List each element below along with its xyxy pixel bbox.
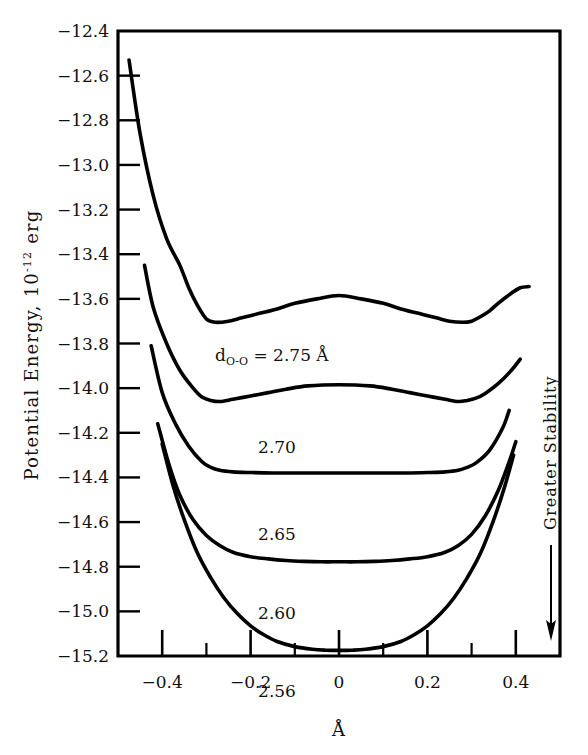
x-tick-label: 0.2 (414, 672, 441, 692)
curve-label-equals: = 2.75 (248, 345, 316, 365)
curve-group (129, 60, 529, 650)
x-axis-title: Å (331, 719, 346, 740)
y-tick-label: −14.4 (57, 467, 109, 487)
greater-stability-label: Greater Stability (541, 375, 560, 530)
y-axis-title-exponent: -12 (21, 251, 34, 272)
y-tick-label: −15.2 (57, 646, 109, 666)
x-tick-label: 0 (334, 672, 345, 692)
x-tick-label: −0.4 (142, 672, 183, 692)
curve-2-65 (151, 346, 509, 473)
y-tick-label: −12.6 (57, 66, 109, 86)
curve-label-2-70: 2.70 (258, 437, 296, 457)
x-axis-tick-labels: −0.4−0.200.20.4 (142, 672, 530, 692)
curve-label-unit: Å (315, 345, 329, 365)
y-axis-ticks (118, 76, 140, 612)
potential-energy-chart: −12.4−12.6−12.8−13.0−13.2−13.4−13.6−13.8… (0, 0, 588, 755)
y-axis-title-main: Potential Energy, 10 (21, 272, 42, 481)
x-tick-label: 0.4 (502, 672, 529, 692)
curve-2-70 (145, 265, 521, 401)
curve-2-56 (162, 444, 513, 650)
curve-label-subscript: O-O (226, 355, 248, 368)
y-tick-label: −13.2 (57, 200, 109, 220)
y-tick-label: −13.6 (57, 289, 109, 309)
y-tick-label: −13.8 (57, 334, 109, 354)
curve-label-d: d (215, 345, 226, 365)
y-tick-label: −15.0 (57, 601, 109, 621)
y-tick-label: −13.0 (57, 155, 109, 175)
curve-label-2-75: dO-O = 2.75 Å (215, 345, 329, 368)
curve-label-2-56: 2.56 (258, 681, 296, 701)
curve-2-75 (129, 60, 529, 322)
curve-2-60 (158, 424, 516, 562)
y-tick-label: −12.8 (57, 110, 109, 130)
chart-svg: −12.4−12.6−12.8−13.0−13.2−13.4−13.6−13.8… (0, 0, 588, 755)
y-axis-title: Potential Energy, 10-12 erg (21, 209, 42, 480)
curve-label-2-65: 2.65 (258, 524, 296, 544)
y-tick-label: −14.0 (57, 378, 109, 398)
y-tick-label: −13.4 (57, 244, 109, 264)
greater-stability-arrow-icon (546, 545, 556, 641)
y-tick-label: −12.4 (57, 21, 109, 41)
y-tick-label: −14.6 (57, 512, 109, 532)
curve-label-2-60: 2.60 (258, 603, 296, 623)
y-axis-title-unit: erg (21, 209, 42, 243)
y-tick-label: −14.2 (57, 423, 109, 443)
y-axis-tick-labels: −12.4−12.6−12.8−13.0−13.2−13.4−13.6−13.8… (57, 21, 109, 666)
y-tick-label: −14.8 (57, 557, 109, 577)
